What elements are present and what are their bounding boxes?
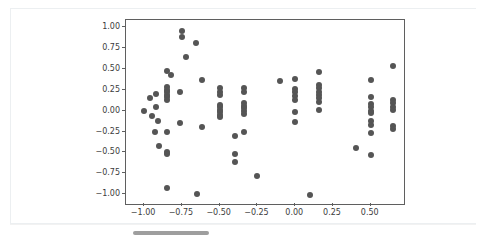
- x-tick-mark: [332, 203, 333, 206]
- y-tick-mark: [122, 26, 125, 27]
- scatter-point: [292, 109, 298, 115]
- scatter-point: [368, 130, 374, 136]
- scatter-point: [353, 145, 359, 151]
- x-tick-label: 0.50: [361, 208, 379, 217]
- scatter-point: [241, 89, 247, 95]
- scatter-point: [141, 108, 147, 114]
- x-tick-label: −0.25: [244, 208, 269, 217]
- scatter-point: [147, 95, 153, 101]
- y-tick-mark: [122, 151, 125, 152]
- scatter-point: [368, 77, 374, 83]
- screenshot-root: −1.00−0.75−0.50−0.250.000.250.50 −1.00−0…: [0, 0, 487, 240]
- y-tick-label: −1.00: [91, 189, 120, 198]
- scatter-point: [168, 72, 174, 78]
- x-tick-label: −1.00: [131, 208, 156, 217]
- x-tick-mark: [219, 203, 220, 206]
- scatter-point: [292, 97, 298, 103]
- scatter-point: [177, 89, 183, 95]
- scatter-point: [292, 119, 298, 125]
- scatter-point: [368, 122, 374, 128]
- scatter-point: [292, 76, 298, 82]
- y-tick-mark: [122, 172, 125, 173]
- scatter-point: [149, 113, 155, 119]
- y-tick-label: 1.00: [91, 22, 120, 31]
- scatter-point: [241, 111, 247, 117]
- scatter-point: [217, 92, 223, 98]
- y-tick-mark: [122, 110, 125, 111]
- scatter-point: [368, 94, 374, 100]
- scatter-point: [164, 151, 170, 157]
- scatter-point: [156, 143, 162, 149]
- x-tick-mark: [294, 203, 295, 206]
- scatter-point: [194, 191, 200, 197]
- x-tick-mark: [256, 203, 257, 206]
- y-tick-mark: [122, 89, 125, 90]
- x-tick-label: −0.75: [169, 208, 194, 217]
- scatter-point: [307, 192, 313, 198]
- scatter-point: [368, 152, 374, 158]
- x-tick-label: 0.00: [285, 208, 303, 217]
- y-tick-label: 0.50: [91, 64, 120, 73]
- scatter-point: [177, 120, 183, 126]
- notebook-output-card: −1.00−0.75−0.50−0.250.000.250.50 −1.00−0…: [10, 8, 476, 224]
- matplotlib-figure: −1.00−0.75−0.50−0.250.000.250.50 −1.00−0…: [11, 9, 477, 223]
- x-tick-mark: [370, 203, 371, 206]
- scatter-point: [179, 34, 185, 40]
- x-tick-mark: [143, 203, 144, 206]
- scatter-point: [390, 107, 396, 113]
- scatter-point: [241, 129, 247, 135]
- x-tick-label: 0.25: [323, 208, 341, 217]
- scatter-point: [316, 99, 322, 105]
- scatter-point: [153, 91, 159, 97]
- scatter-point: [199, 124, 205, 130]
- scatter-point: [316, 69, 322, 75]
- scatter-point: [183, 54, 189, 60]
- scatter-point: [316, 107, 322, 113]
- x-tick-mark: [181, 203, 182, 206]
- scatter-point: [390, 126, 396, 132]
- scatter-point: [193, 40, 199, 46]
- y-tick-label: −0.75: [91, 168, 120, 177]
- scatter-point: [199, 77, 205, 83]
- y-tick-label: 0.25: [91, 84, 120, 93]
- scatter-point: [390, 63, 396, 69]
- horizontal-scrollbar-track[interactable]: [10, 230, 476, 236]
- y-tick-mark: [122, 68, 125, 69]
- plot-axes-frame: [125, 19, 405, 205]
- y-tick-label: 0.75: [91, 43, 120, 52]
- scatter-point: [277, 78, 283, 84]
- scatter-point: [153, 104, 159, 110]
- scatter-point: [232, 133, 238, 139]
- scatter-point: [368, 110, 374, 116]
- y-tick-mark: [122, 193, 125, 194]
- y-tick-label: 0.00: [91, 105, 120, 114]
- scatter-point: [152, 129, 158, 135]
- scatter-point: [164, 185, 170, 191]
- y-tick-mark: [122, 47, 125, 48]
- horizontal-scrollbar-thumb[interactable]: [133, 231, 209, 235]
- scatter-point: [217, 114, 223, 120]
- scatter-point: [164, 97, 170, 103]
- scatter-point: [232, 159, 238, 165]
- scatter-point: [164, 129, 170, 135]
- y-tick-label: −0.50: [91, 147, 120, 156]
- scatter-point: [232, 151, 238, 157]
- y-tick-mark: [122, 131, 125, 132]
- card-bottom-divider: [10, 224, 476, 225]
- x-tick-label: −0.50: [206, 208, 231, 217]
- scatter-point: [179, 28, 185, 34]
- scatter-point: [155, 118, 161, 124]
- scatter-plot-area: [126, 20, 404, 204]
- scatter-point: [254, 173, 260, 179]
- y-tick-label: −0.25: [91, 126, 120, 135]
